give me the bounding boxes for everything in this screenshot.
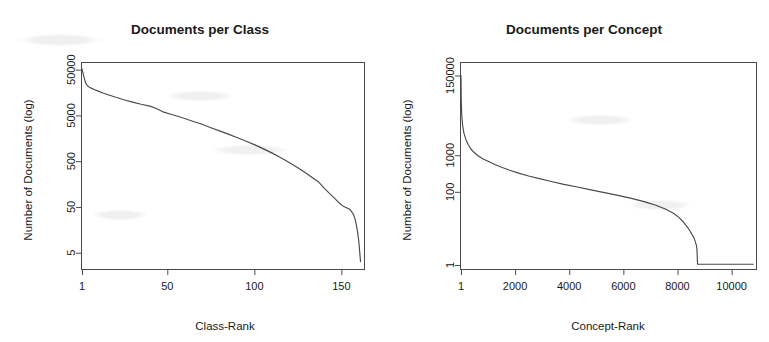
chart-title: Documents per Class: [131, 22, 269, 37]
y-axis-ticks: 11001000150000: [443, 57, 460, 268]
x-axis-label: Class-Rank: [195, 320, 255, 332]
y-axis-label: Number of Documents (log): [401, 99, 413, 240]
x-axis-ticks: 1200040006000800010000: [457, 269, 746, 292]
data-series-line: [82, 69, 361, 262]
plot-frame-group: [460, 63, 756, 270]
y-tick-label: 50: [65, 201, 77, 213]
x-tick-label: 2000: [502, 280, 526, 292]
y-tick-label: 500: [65, 152, 77, 170]
x-tick-label: 50: [161, 280, 173, 292]
data-series-line: [461, 76, 753, 265]
chart-panel-documents-per-class: Documents per Class 550500500050000 1501…: [0, 0, 385, 342]
figure-root: Documents per Class 550500500050000 1501…: [0, 0, 769, 342]
x-tick-label: 1: [79, 280, 85, 292]
y-tick-label: 5000: [65, 103, 77, 127]
x-tick-label: 6000: [611, 280, 635, 292]
y-axis-label: Number of Documents (log): [22, 99, 34, 240]
plot-frame-group: [82, 63, 365, 270]
x-tick-label: 8000: [665, 280, 689, 292]
x-tick-label: 150: [332, 280, 350, 292]
y-tick-label: 5: [65, 250, 77, 256]
documents-per-concept-chart: Documents per Concept 11001000150000 120…: [385, 0, 769, 342]
chart-title: Documents per Concept: [505, 22, 662, 37]
plot-frame: [460, 63, 756, 270]
x-tick-label: 1: [457, 280, 463, 292]
documents-per-class-chart: Documents per Class 550500500050000 1501…: [0, 0, 384, 342]
y-tick-label: 100: [443, 183, 455, 201]
x-axis-label: Concept-Rank: [571, 320, 645, 332]
x-axis-ticks: 150100150: [79, 269, 351, 292]
plot-frame: [82, 63, 365, 270]
y-tick-label: 1: [443, 262, 455, 268]
y-tick-label: 50000: [65, 54, 77, 85]
x-tick-label: 4000: [556, 280, 580, 292]
chart-panel-documents-per-concept: Documents per Concept 11001000150000 120…: [385, 0, 769, 342]
y-tick-label: 1000: [443, 143, 455, 167]
y-tick-label: 150000: [443, 57, 455, 94]
x-tick-label: 100: [245, 280, 263, 292]
x-tick-label: 10000: [716, 280, 747, 292]
y-axis-ticks: 550500500050000: [65, 54, 82, 255]
